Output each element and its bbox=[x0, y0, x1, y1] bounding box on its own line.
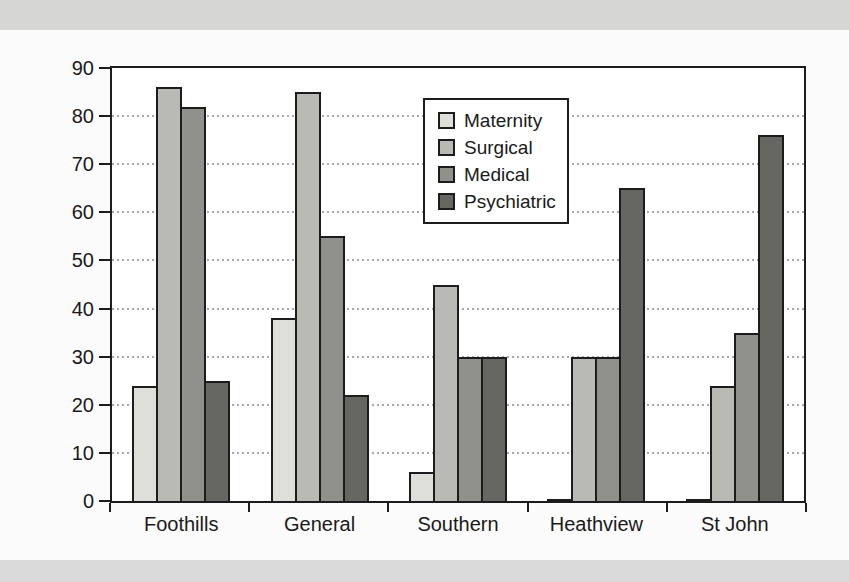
legend-box: MaternitySurgicalMedicalPsychiatric bbox=[423, 98, 569, 224]
gridline-50 bbox=[112, 259, 804, 261]
y-tick-60 bbox=[99, 211, 110, 213]
y-tick-label-30: 30 bbox=[36, 345, 94, 369]
bar-general-psychiatric bbox=[343, 395, 369, 501]
bar-st-john-medical bbox=[734, 333, 760, 501]
legend-item-surgical: Surgical bbox=[438, 138, 559, 157]
y-tick-label-20: 20 bbox=[36, 393, 94, 417]
legend-swatch-surgical bbox=[438, 139, 455, 156]
x-axis-label-general: General bbox=[250, 511, 390, 537]
top-gray-band bbox=[0, 0, 849, 30]
bar-southern-psychiatric bbox=[481, 357, 507, 501]
y-tick-label-70: 70 bbox=[36, 152, 94, 176]
bar-southern-surgical bbox=[433, 285, 459, 502]
y-tick-label-90: 90 bbox=[36, 56, 94, 80]
bar-general-medical bbox=[319, 236, 345, 501]
y-tick-label-50: 50 bbox=[36, 248, 94, 272]
y-tick-label-40: 40 bbox=[36, 297, 94, 321]
y-tick-label-0: 0 bbox=[36, 489, 94, 513]
y-tick-90 bbox=[99, 67, 110, 69]
bar-heathview-surgical bbox=[571, 357, 597, 501]
bar-southern-medical bbox=[457, 357, 483, 501]
y-tick-label-60: 60 bbox=[36, 200, 94, 224]
y-tick-20 bbox=[99, 404, 110, 406]
bar-foothills-surgical bbox=[156, 87, 182, 501]
bar-foothills-psychiatric bbox=[204, 381, 230, 501]
x-axis-label-heathview: Heathview bbox=[526, 511, 666, 537]
bar-southern-maternity bbox=[409, 472, 435, 501]
y-tick-label-10: 10 bbox=[36, 441, 94, 465]
bar-heathview-psychiatric bbox=[619, 188, 645, 501]
y-tick-40 bbox=[99, 308, 110, 310]
x-axis-label-southern: Southern bbox=[388, 511, 528, 537]
bar-general-surgical bbox=[295, 92, 321, 501]
x-axis-label-st-john: St John bbox=[665, 511, 805, 537]
legend-label-medical: Medical bbox=[464, 165, 529, 184]
chart-page: 0102030405060708090FoothillsGeneralSouth… bbox=[0, 0, 849, 582]
bar-st-john-psychiatric bbox=[758, 135, 784, 501]
bar-foothills-maternity bbox=[132, 386, 158, 501]
x-axis-label-foothills: Foothills bbox=[111, 511, 251, 537]
y-tick-70 bbox=[99, 163, 110, 165]
bar-foothills-medical bbox=[180, 107, 206, 502]
legend-label-surgical: Surgical bbox=[464, 138, 533, 157]
bar-st-john-maternity bbox=[686, 499, 712, 501]
y-tick-10 bbox=[99, 452, 110, 454]
y-tick-80 bbox=[99, 115, 110, 117]
legend-label-maternity: Maternity bbox=[464, 111, 542, 130]
y-tick-50 bbox=[99, 259, 110, 261]
legend-label-psychiatric: Psychiatric bbox=[464, 192, 556, 211]
bar-heathview-maternity bbox=[547, 499, 573, 501]
y-tick-30 bbox=[99, 356, 110, 358]
y-tick-label-80: 80 bbox=[36, 104, 94, 128]
bar-general-maternity bbox=[271, 318, 297, 501]
legend-item-medical: Medical bbox=[438, 165, 559, 184]
x-tick-5 bbox=[805, 503, 807, 512]
legend-swatch-medical bbox=[438, 166, 455, 183]
bottom-gray-band bbox=[0, 560, 849, 582]
legend-swatch-maternity bbox=[438, 112, 455, 129]
y-tick-0 bbox=[99, 500, 110, 502]
bar-st-john-surgical bbox=[710, 386, 736, 501]
legend-item-maternity: Maternity bbox=[438, 111, 559, 130]
legend-swatch-psychiatric bbox=[438, 193, 455, 210]
legend-item-psychiatric: Psychiatric bbox=[438, 192, 559, 211]
bar-heathview-medical bbox=[595, 357, 621, 501]
